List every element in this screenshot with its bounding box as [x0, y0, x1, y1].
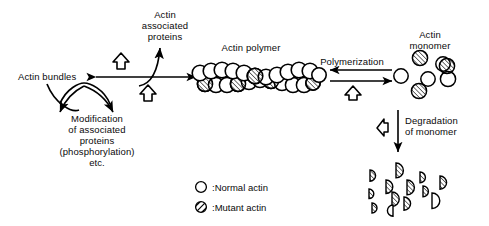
diagram-vectors	[0, 0, 489, 226]
degraded-fragments-cluster	[369, 163, 447, 216]
actin-monomer-cluster	[394, 50, 456, 98]
hollow-arrow-up-left	[113, 53, 129, 69]
arrow-to-associated-proteins	[139, 48, 160, 86]
hollow-arrow-up-degradation	[377, 119, 388, 136]
arrow-to-modification	[47, 83, 113, 112]
hollow-arrow-up-polymerization	[345, 86, 361, 100]
actin-polymer-filament	[192, 62, 326, 92]
actin-dynamics-diagram: Actin bundles Actin associated proteins …	[0, 0, 489, 226]
hollow-arrow-up-center	[140, 85, 156, 101]
